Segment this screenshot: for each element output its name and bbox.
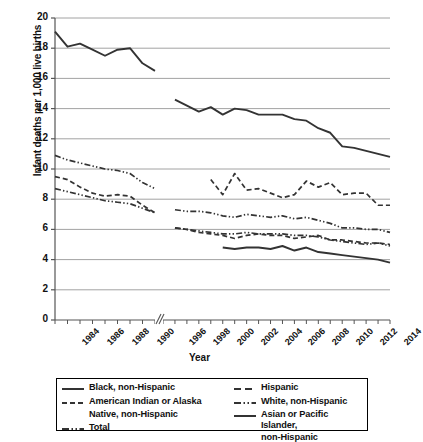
legend-item-american-indian: American Indian or Alaska [61, 396, 229, 408]
series-line [55, 155, 155, 188]
y-tick-label: 2 [22, 283, 48, 294]
legend-item-asian-pacific-islander: Asian or Pacific Islander, [233, 409, 367, 430]
series-line [175, 100, 390, 157]
legend-item-white-non-hispanic: White, non-Hispanic [233, 396, 367, 408]
chart-legend: Black, non-Hispanic American Indian or A… [56, 378, 368, 431]
y-tick-label: 14 [22, 102, 48, 113]
legend-line-dash-dot-dot-icon [61, 423, 85, 434]
y-tick-label: 10 [22, 162, 48, 173]
series-line [55, 189, 155, 213]
series-line [175, 228, 390, 246]
y-tick-label: 0 [22, 313, 48, 324]
legend-line-dashed-icon [233, 383, 257, 394]
series-line [55, 177, 155, 213]
legend-line-dash-dot-dot-icon [233, 397, 257, 408]
legend-line-solid-icon [61, 383, 85, 394]
legend-item-black-non-hispanic: Black, non-Hispanic [61, 382, 229, 394]
legend-label: White, non-Hispanic [261, 396, 347, 407]
legend-label: Total [89, 422, 110, 433]
legend-label: Black, non-Hispanic [89, 382, 175, 393]
y-tick-label: 8 [22, 192, 48, 203]
x-axis-label: Year [0, 352, 399, 363]
y-tick-label: 16 [22, 71, 48, 82]
legend-line-dashed-icon [61, 397, 85, 408]
legend-label-continuation: Native, non-Hispanic [61, 409, 229, 420]
series-line [175, 228, 390, 245]
legend-column-left: Black, non-Hispanic American Indian or A… [57, 379, 229, 430]
y-tick-label: 12 [22, 132, 48, 143]
legend-item-hispanic: Hispanic [233, 382, 367, 394]
legend-label: American Indian or Alaska [89, 396, 202, 407]
legend-label: Hispanic [261, 382, 299, 393]
legend-label: Asian or Pacific Islander, [261, 409, 367, 430]
series-line [211, 174, 390, 206]
y-tick-label: 18 [22, 41, 48, 52]
series-line [223, 246, 390, 263]
x-tick-label: 2014 [402, 326, 423, 347]
series-line [55, 32, 155, 71]
y-tick-label: 20 [22, 11, 48, 22]
y-tick-label: 6 [22, 222, 48, 233]
legend-label-continuation: non-Hispanic [233, 432, 367, 442]
legend-item-total: Total [61, 422, 229, 434]
y-tick-label: 4 [22, 253, 48, 264]
legend-column-right: Hispanic White, non-Hispanic Asian or Pa… [229, 379, 367, 430]
legend-line-solid-icon [233, 410, 257, 421]
